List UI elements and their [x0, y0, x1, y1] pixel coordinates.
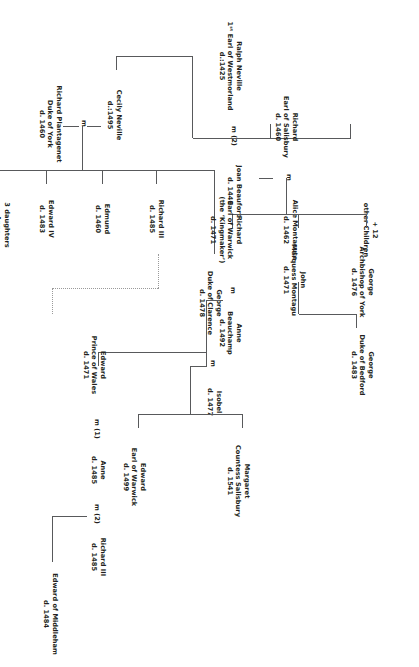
node-death: d. 1477	[206, 370, 215, 434]
connector-stub-margaret-salisbury	[242, 414, 243, 428]
node-name: Anne	[234, 296, 243, 370]
node-anne-neville: Anne d. 1485	[90, 437, 107, 503]
node-richard-iii: Richard III d. 1485	[148, 184, 165, 254]
connector-richard-iii-identity-v	[53, 288, 159, 289]
connector-richard-iii-identity-h2	[52, 288, 53, 314]
family-tree-canvas: Ralph Neville 1ˢᵗ Earl of Westmorland d.…	[0, 0, 419, 667]
node-george-clarence: George Duke of Clarence d. 1478	[197, 254, 223, 352]
node-death: d. 1478	[197, 254, 206, 352]
node-daughter-1: Anne	[0, 184, 2, 266]
node-title: Duke of York	[46, 72, 55, 176]
node-edward-of-middleham: Edward of Middleham d. 1484	[42, 562, 59, 666]
node-cecily-neville: Cecily Neville d.:1495	[106, 72, 123, 158]
node-title: Duke of Bedford	[358, 316, 367, 414]
node-richard-iii-spouse: Richard III d. 1485	[90, 524, 107, 590]
connector-stub-edward-warwick	[138, 414, 139, 428]
connector-montagu-child-h	[298, 282, 299, 314]
connector-richard-iii-identity-h	[158, 254, 159, 288]
connector-to-cecily-h	[116, 56, 117, 70]
node-three-daughters: 3 daughters Anne Elizabeth Margaret	[0, 184, 11, 266]
marriage-marker-clarence-isobel: m	[209, 360, 216, 367]
node-edward-earl-of-warwick: Edward Earl of Warwick d. 1499	[121, 428, 147, 526]
node-title: Earl of Warwick	[226, 178, 235, 282]
connector-york-children-spine	[0, 170, 215, 171]
node-name: Margaret	[242, 428, 251, 534]
connector-stub-montagu	[298, 214, 299, 228]
marriage-marker-anne-richard: m (2)	[93, 504, 100, 524]
connector-to-cecily	[117, 56, 193, 57]
node-title: Earl of Salisbury	[282, 84, 291, 170]
connector-warwick-to-isobel-h	[206, 352, 207, 366]
connector-anne-richard-child-v	[53, 516, 87, 517]
node-margaret-countess-salisbury: Margaret Countess Salisbury d. 1541	[225, 428, 251, 534]
node-edmund: Edmund d. 1460	[94, 184, 111, 254]
connector-warwick-daughters-spine	[99, 352, 207, 353]
connector-stub-richard-iii	[156, 170, 157, 184]
connector-stub-edmund	[102, 170, 103, 184]
connector-to-salisbury-h	[270, 124, 271, 138]
node-name: Ralph Neville	[234, 14, 243, 118]
node-death: d. 1485	[90, 437, 99, 503]
node-death: d. 1541	[225, 428, 234, 534]
node-john-montagu: John Marquess Montagu d. 1471	[281, 228, 307, 332]
node-name: Edward	[138, 428, 147, 526]
rotated-diagram-wrapper: Ralph Neville 1ˢᵗ Earl of Westmorland d.…	[0, 0, 419, 667]
node-name: Edward	[98, 316, 107, 414]
node-death: d. 1471	[81, 316, 90, 414]
node-death: d. 1460	[94, 184, 103, 254]
node-name: John	[298, 228, 307, 332]
node-name: 3 daughters	[2, 184, 11, 266]
node-death: d. 1460	[273, 84, 282, 170]
marriage-marker-warwick-anne: m	[229, 287, 236, 294]
node-death: d. 1485	[90, 524, 99, 590]
node-death: d. 1485	[148, 184, 157, 254]
node-name: Cecily Neville	[114, 72, 123, 158]
connector-montagu-child-v	[299, 314, 357, 315]
node-name: Edmund	[102, 184, 111, 254]
node-death: d.:1425	[217, 14, 226, 118]
marriage-marker-anne-edward: m (1)	[93, 419, 100, 439]
connector-stub-george-york	[366, 214, 367, 228]
node-name: Isobel	[214, 370, 223, 434]
node-name: George	[214, 254, 223, 352]
node-name: Richard III	[156, 184, 165, 254]
connector-york-children-bus	[82, 126, 83, 170]
node-title: Earl of Warwick	[130, 428, 139, 526]
connector-montagu-child-h2	[356, 314, 357, 328]
connector-to-edward-middleham	[52, 516, 53, 562]
node-name: Richard III	[98, 524, 107, 590]
connector-salisbury-marriage	[259, 178, 273, 179]
node-richard-york: Richard Plantagenet Duke of York d. 1460	[37, 72, 63, 176]
node-name: Richard	[290, 84, 299, 170]
node-richard-salisbury: Richard Earl of Salisbury d. 1460	[273, 84, 299, 170]
connector-gen2-bus	[192, 56, 193, 138]
node-isobel: Isobel d. 1477	[206, 370, 223, 434]
connector-york-cecily-marriage-2	[63, 126, 79, 127]
node-title: Marquess Montagu	[290, 228, 299, 332]
connector-to-other-children-h	[350, 124, 351, 138]
node-death: d. 1499	[121, 428, 130, 526]
node-title: 1ˢᵗ Earl of Westmorland	[226, 14, 235, 118]
node-title: Countess Salisbury	[234, 428, 243, 534]
node-death: d. 1483	[38, 184, 47, 254]
connector-warwick-marriage	[207, 300, 223, 301]
connector-clarence-children-bus	[190, 366, 191, 414]
marriage-marker-ralph-joan: m (2)	[230, 126, 237, 146]
node-name: Richard	[234, 178, 243, 282]
node-death: d. 1484	[42, 562, 51, 666]
node-title: Prince of Wales	[90, 316, 99, 414]
node-george-duke-of-bedford: George Duke of Bedford d. 1483	[349, 316, 375, 414]
node-name: Anne	[98, 437, 107, 503]
node-death: d. 1483	[349, 316, 358, 414]
connector-salisbury-children-bus	[286, 178, 287, 214]
connector-clarence-marriage	[191, 366, 207, 367]
node-death: d. 1460	[37, 72, 46, 176]
node-edward-prince-of-wales: Edward Prince of Wales d. 1471	[81, 316, 107, 414]
node-ralph-neville: Ralph Neville 1ˢᵗ Earl of Westmorland d.…	[217, 14, 243, 118]
connector-salisbury-children-spine	[233, 214, 367, 215]
node-name: Edward IV	[46, 184, 55, 254]
connector-warwick-to-isobel	[206, 300, 207, 352]
node-death: d.:1495	[106, 72, 115, 158]
connector-york-cecily-marriage	[87, 126, 101, 127]
node-name: Richard Plantagenet	[54, 72, 63, 176]
